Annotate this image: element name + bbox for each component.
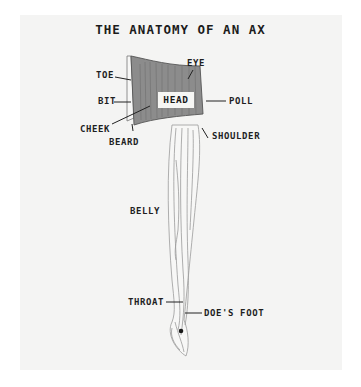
label-poll: POLL (229, 96, 253, 106)
label-bit: BIT (98, 96, 116, 106)
label-shoulder: SHOULDER (212, 131, 260, 141)
label-beard: BEARD (109, 137, 139, 147)
ax-illustration (0, 0, 361, 387)
label-eye: EYE (187, 58, 205, 68)
label-belly: BELLY (130, 206, 160, 216)
label-throat: THROAT (128, 297, 164, 307)
label-toe: TOE (96, 70, 114, 80)
label-head: HEAD (158, 92, 194, 108)
handle-hole (179, 329, 184, 334)
ax-handle (168, 125, 199, 356)
label-cheek: CHEEK (80, 124, 110, 134)
label-does-foot: DOE'S FOOT (204, 308, 264, 318)
